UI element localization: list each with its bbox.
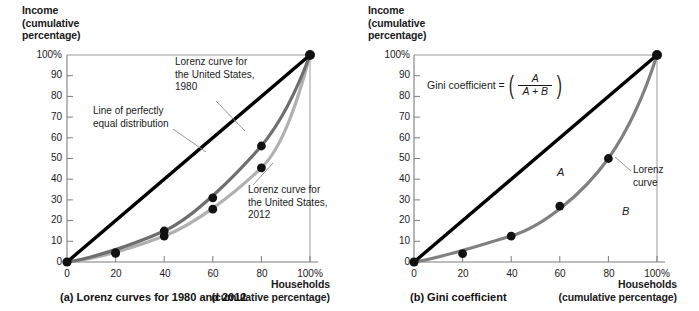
- gini-numerator: A: [528, 73, 543, 85]
- x-axis-title-b: Households (cumulative percentage): [537, 278, 677, 303]
- y-tick-marks-b: [414, 76, 420, 242]
- x-tick-marks-b: [463, 256, 657, 262]
- plot-area-a: [0, 0, 349, 311]
- chart-svg-a: [0, 0, 349, 311]
- gini-fraction: A A + B: [518, 73, 552, 98]
- gini-formula-label: Gini coefficient =: [427, 79, 505, 91]
- formula-close-paren: ): [557, 72, 562, 98]
- panel-a-caption: (a) Lorenz curves for 1980 and 2012: [60, 291, 246, 303]
- lorenz-2012-label: Lorenz curve for the United States, 2012: [248, 184, 353, 222]
- panel-lorenz-curves: Income (cumulative percentage) 100% 90 8…: [0, 0, 349, 311]
- region-a-label: A: [557, 166, 564, 178]
- leader-line-equality: [173, 129, 206, 152]
- region-b-label: B: [622, 205, 629, 217]
- gini-formula: Gini coefficient = ( A A + B ): [427, 72, 566, 98]
- equality-line-label: Line of perfectly equal distribution: [93, 105, 203, 130]
- plot-area-b: [350, 0, 699, 311]
- lorenz-gini-figure: Income (cumulative percentage) 100% 90 8…: [0, 0, 699, 311]
- x-tick-marks: [116, 256, 310, 262]
- panel-b-caption: (b) Gini coefficient: [410, 291, 507, 303]
- lorenz-1980-label: Lorenz curve for the United States, 1980: [175, 56, 295, 94]
- y-tick-marks: [67, 76, 73, 242]
- leader-line-lorenz-b: [615, 157, 631, 171]
- chart-svg-b: [350, 0, 699, 311]
- formula-open-paren: (: [508, 72, 513, 98]
- lorenz-curve-label: Lorenz curve: [633, 164, 693, 189]
- panel-gini-coefficient: Income (cumulative percentage) 100% 90 8…: [350, 0, 699, 311]
- gini-denominator: A + B: [518, 85, 552, 98]
